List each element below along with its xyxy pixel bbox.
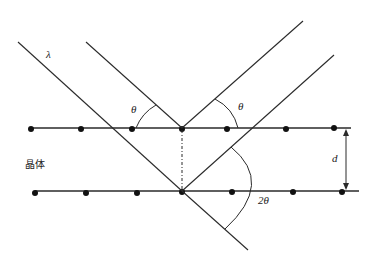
- incident-angle-arc: [136, 105, 156, 128]
- incident-angle-label: θ: [131, 103, 136, 115]
- deflection-angle-label: 2θ: [258, 194, 269, 206]
- reflected-angle-label: θ: [238, 100, 243, 112]
- crystal-label: 晶体: [25, 156, 45, 171]
- diagram-canvas: [0, 0, 373, 269]
- reflected-ray-lower: [182, 55, 334, 191]
- arrow-head-down-icon: [343, 183, 349, 190]
- arrow-head-up-icon: [343, 129, 349, 136]
- deflection-angle-arc: [225, 147, 252, 229]
- wavelength-label: λ: [46, 48, 51, 60]
- spacing-label: d: [332, 152, 338, 164]
- transmitted-ray: [182, 191, 248, 250]
- atoms-bottom-row: [32, 189, 345, 196]
- bragg-diffraction-diagram: λ θ θ d 2θ 晶体: [0, 0, 373, 269]
- reflected-angle-arc: [215, 99, 238, 128]
- incident-ray-upper: [86, 42, 182, 128]
